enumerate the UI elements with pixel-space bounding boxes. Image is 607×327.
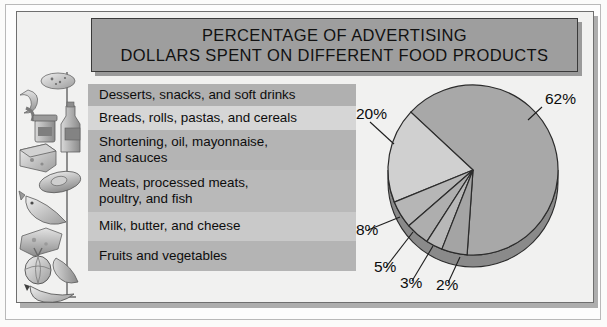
- legend-item-label: Fruits and vegetables: [99, 248, 227, 264]
- pie-label-5: 5%: [374, 258, 396, 276]
- food-illustration-collage: [12, 72, 96, 304]
- legend-item-label: Desserts, snacks, and soft drinks: [99, 87, 295, 103]
- banana-icon: [24, 284, 74, 302]
- fish-icon-1: [19, 191, 66, 224]
- page-title-line-2: DOLLARS SPENT ON DIFFERENT FOOD PRODUCTS: [121, 45, 549, 65]
- fish-icon-2: [53, 258, 78, 283]
- pastry-icon: [41, 73, 75, 89]
- bottle-icon: [61, 102, 80, 152]
- pie-label-20: 20%: [356, 105, 387, 123]
- pie-label-3: 3%: [400, 274, 422, 292]
- title-bar: PERCENTAGE OF ADVERTISING DOLLARS SPENT …: [91, 18, 578, 72]
- chart-figure: PERCENTAGE OF ADVERTISING DOLLARS SPENT …: [0, 0, 607, 327]
- jar-icon: [33, 115, 57, 142]
- page-title-line-1: PERCENTAGE OF ADVERTISING: [202, 25, 467, 45]
- pie-label-2: 2%: [436, 276, 458, 294]
- ham-steak-icon: [37, 168, 82, 196]
- legend-item-meats[interactable]: Meats, processed meats, poultry, and fis…: [88, 170, 356, 212]
- legend-item-label: Milk, butter, and cheese: [99, 218, 240, 234]
- legend: Desserts, snacks, and soft drinks Breads…: [88, 84, 356, 299]
- pie-label-62: 62%: [545, 90, 576, 108]
- legend-item-shortening[interactable]: Shortening, oil, mayonnaise, and sauces: [88, 130, 356, 170]
- pie-slices: [388, 85, 558, 255]
- legend-item-label: Breads, rolls, pastas, and cereals: [99, 110, 297, 126]
- legend-item-label: Meats, processed meats, poultry, and fis…: [99, 175, 249, 208]
- cheese-block-icon: [20, 228, 62, 256]
- food-illustration-art: [12, 72, 96, 304]
- legend-item-label: Shortening, oil, mayonnaise, and sauces: [99, 134, 268, 167]
- pie-chart: 62% 20% 8% 5% 3% 2%: [356, 78, 588, 293]
- legend-item-breads[interactable]: Breads, rolls, pastas, and cereals: [88, 106, 356, 130]
- legend-item-fruits[interactable]: Fruits and vegetables: [88, 241, 356, 271]
- leader-line-20: [370, 122, 394, 144]
- legend-item-milk[interactable]: Milk, butter, and cheese: [88, 212, 356, 241]
- legend-item-desserts[interactable]: Desserts, snacks, and soft drinks: [88, 84, 356, 106]
- pie-label-8: 8%: [356, 221, 378, 239]
- cheese-wedge-icon: [20, 144, 56, 172]
